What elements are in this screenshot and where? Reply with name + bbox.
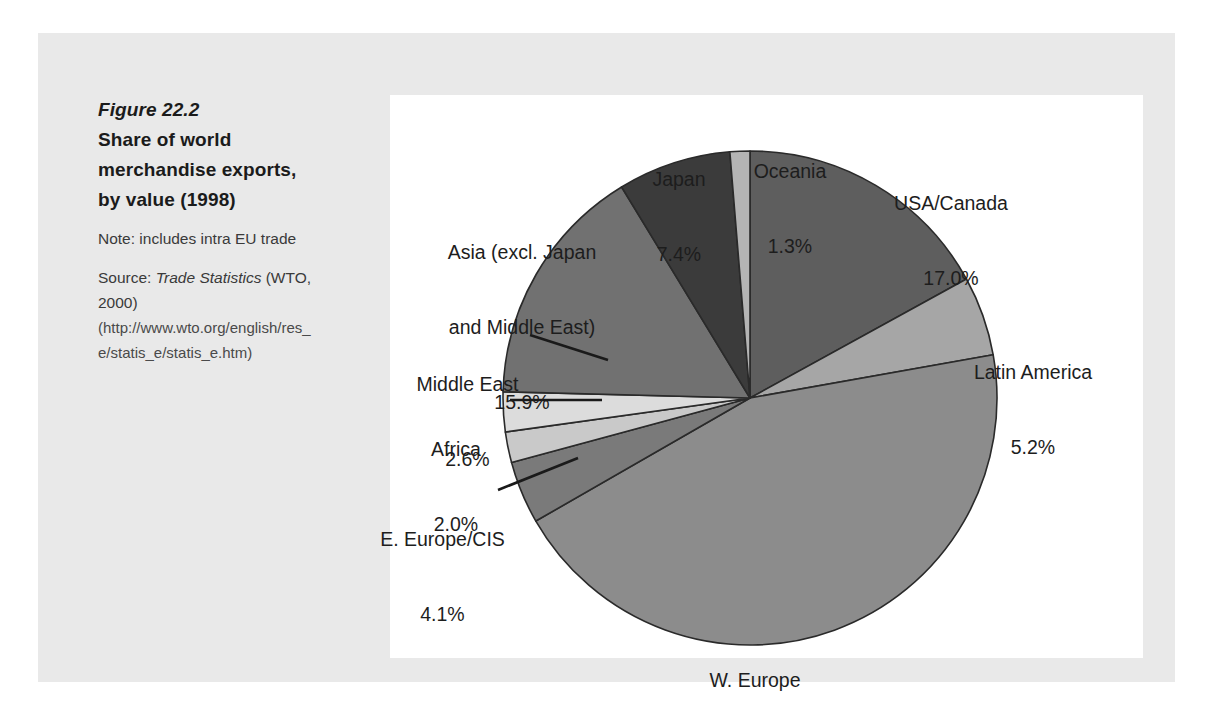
label-oceania: Oceania 1.3% [730,109,850,309]
label-japan-value: 7.4% [624,242,734,267]
caption-column: Figure 22.2 Share of world merchandise e… [98,95,368,365]
figure-panel: Figure 22.2 Share of world merchandise e… [38,33,1175,682]
label-w-europe: W. Europe 44.5% [680,618,830,722]
figure-note: Note: includes intra EU trade [98,226,323,251]
label-oceania-name: Oceania [730,159,850,184]
label-latin-america-name: Latin America [938,360,1128,385]
label-usa-canada-name: USA/Canada [866,191,1036,216]
label-africa-name: Africa [400,437,512,462]
label-japan: Japan 7.4% [624,117,734,317]
label-latin-america: Latin America 5.2% [938,310,1128,510]
label-japan-name: Japan [624,167,734,192]
label-e-europe-cis-name: E. Europe/CIS [380,527,505,552]
label-w-europe-name: W. Europe [680,668,830,693]
label-e-europe-cis-value: 4.1% [380,602,505,627]
note-text: includes intra EU trade [135,230,296,247]
figure-source-url: (http://www.wto.org/english/res_e/statis… [98,315,313,365]
label-usa-canada-value: 17.0% [866,266,1036,291]
figure-source: Source: Trade Statistics (WTO, 2000) [98,265,323,315]
source-label: Source: [98,269,151,286]
figure-title: Share of world merchandise exports, by v… [98,125,313,215]
figure-number: Figure 22.2 [98,95,368,125]
pie-chart-panel: Japan 7.4% Oceania 1.3% USA/Canada 17.0%… [390,95,1143,658]
label-asia-line1: Asia (excl. Japan [412,240,632,265]
label-oceania-value: 1.3% [730,234,850,259]
source-title: Trade Statistics [151,269,261,286]
label-e-europe-cis: E. Europe/CIS 4.1% [380,477,505,677]
note-label: Note: [98,230,135,247]
label-latin-america-value: 5.2% [938,435,1128,460]
